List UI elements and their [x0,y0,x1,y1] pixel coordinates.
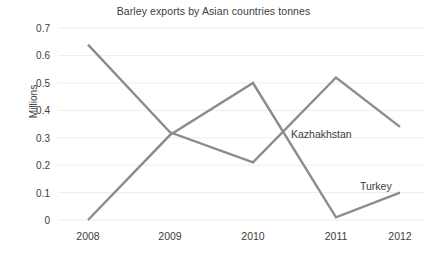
series-line-kazhakhstan [88,45,400,163]
plot-area [0,0,427,256]
x-tick-label-2010: 2010 [231,230,275,242]
series-label-turkey: Turkey [360,180,392,192]
x-tick-label-2009: 2009 [148,230,192,242]
x-tick-label-2012: 2012 [378,230,422,242]
x-tick-label-2008: 2008 [66,230,110,242]
series-line-turkey [88,83,400,220]
series-lines [88,45,400,220]
x-tick-label-2011: 2011 [314,230,358,242]
series-label-kazhakhstan: Kazhakhstan [291,128,352,140]
line-chart: Barley exports by Asian countries tonnes… [0,0,427,256]
